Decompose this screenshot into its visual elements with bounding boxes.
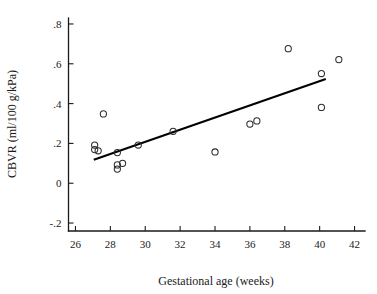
data-point-marker: [254, 118, 260, 124]
data-point-marker: [285, 46, 291, 52]
x-tick-label: 30: [140, 238, 152, 250]
data-point-marker: [100, 111, 106, 117]
y-axis-ticks: -.20.2.4.6.8: [50, 18, 74, 229]
x-axis-title: Gestational age (weeks): [158, 274, 273, 288]
y-tick-label: -.2: [50, 217, 62, 229]
regression-line-path: [94, 79, 326, 160]
chart-figure: -.20.2.4.6.8 262830323436384042 Gestatio…: [0, 0, 377, 294]
x-tick-label: 42: [349, 238, 360, 250]
x-tick-label: 28: [105, 238, 117, 250]
y-tick-label: .2: [53, 137, 61, 149]
x-tick-label: 38: [279, 238, 291, 250]
y-tick-label: 0: [56, 177, 62, 189]
x-axis-ticks: 262830323436384042: [70, 226, 360, 250]
y-axis-title: CBVR (ml/100 g/kPa): [5, 70, 19, 178]
y-tick-label: .4: [53, 98, 62, 110]
x-tick-label: 26: [70, 238, 82, 250]
data-point-marker: [114, 166, 120, 172]
y-tick-label: .6: [53, 58, 62, 70]
y-tick-label: .8: [53, 18, 62, 30]
scatter-plot-canvas: -.20.2.4.6.8 262830323436384042 Gestatio…: [0, 0, 377, 294]
regression-line: [94, 79, 326, 160]
data-point-marker: [212, 149, 218, 155]
data-point-marker: [318, 70, 324, 76]
x-tick-label: 40: [314, 238, 326, 250]
x-tick-label: 32: [175, 238, 186, 250]
data-points: [92, 46, 342, 173]
data-point-marker: [336, 57, 342, 63]
data-point-marker: [247, 121, 253, 127]
x-tick-label: 36: [244, 238, 256, 250]
data-point-marker: [318, 104, 324, 110]
x-tick-label: 34: [210, 238, 222, 250]
